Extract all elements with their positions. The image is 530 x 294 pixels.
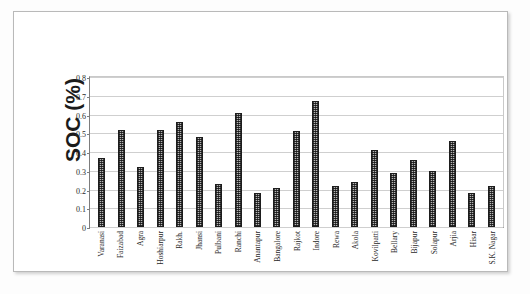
chart-frame: SOC (%) 00.10.20.30.40.50.60.70.8 Varana… [13, 11, 508, 272]
bar-slot [209, 77, 228, 227]
bar-slot [326, 77, 345, 227]
x-axis-tick-label: Hoshiarpur [155, 231, 164, 265]
bar [98, 158, 105, 227]
bar-slot [267, 77, 286, 227]
y-axis-tick-label: 0.5 [76, 130, 86, 139]
y-axis-tick-label: 0.4 [76, 149, 86, 158]
x-label-slot: Faizabad [111, 229, 131, 291]
y-axis-tick-label: 0.1 [76, 205, 86, 214]
y-axis-tick-label: 0.7 [76, 92, 86, 101]
bar-slot [404, 77, 423, 227]
bar [196, 137, 203, 227]
x-label-slot: Arjia [443, 229, 463, 291]
x-label-slot: Bangalore [267, 229, 287, 291]
x-axis-tick-label: Faizabad [116, 231, 125, 258]
bar-slot [248, 77, 267, 227]
x-label-slot: Akola [346, 229, 366, 291]
x-label-slot: Pulbani [208, 229, 228, 291]
bar [157, 130, 164, 228]
x-label-slot: Hoshiarpur [150, 229, 170, 291]
bar [468, 193, 475, 227]
x-label-slot: Bellary [385, 229, 405, 291]
x-label-slot: Agra [130, 229, 150, 291]
x-axis-tick-label: Ranchi [233, 231, 242, 252]
bar-slot [189, 77, 208, 227]
bar [176, 122, 183, 227]
x-label-slot: Jhansi [189, 229, 209, 291]
bar [410, 160, 417, 228]
bar-slot [92, 77, 111, 227]
x-label-slot: Bijapur [404, 229, 424, 291]
x-axis-tick-label: Solapur [429, 231, 438, 254]
bar [371, 150, 378, 227]
bar [254, 193, 261, 227]
x-axis-tick-label: Rakh. [175, 231, 184, 249]
y-axis-tick-label: 0.6 [76, 111, 86, 120]
x-axis-tick-label: Rajkot [292, 231, 301, 251]
x-axis-tick-label: Agra [135, 231, 144, 246]
x-axis-tick-label: Kovilpatti [370, 231, 379, 261]
y-axis-tick-label: 0.3 [76, 167, 86, 176]
x-label-slot: Anantapur [248, 229, 268, 291]
bar-slot [462, 77, 481, 227]
x-axis-tick-label: S.K. Nagar [488, 231, 497, 265]
x-label-slot: Rakh. [169, 229, 189, 291]
bar-slot [384, 77, 403, 227]
bar-slot [481, 77, 500, 227]
x-label-slot: Kovilpatti [365, 229, 385, 291]
bar [351, 182, 358, 227]
bar [312, 101, 319, 227]
bar-slot [365, 77, 384, 227]
bar-slot [170, 77, 189, 227]
x-axis-tick-label: Bangalore [272, 231, 281, 262]
bar-slot [111, 77, 130, 227]
x-axis-tick-label: Anantapur [253, 231, 262, 263]
bar-slot [306, 77, 325, 227]
bar-slot [423, 77, 442, 227]
bar [390, 173, 397, 227]
plot-area: 00.10.20.30.40.50.60.70.8 [89, 76, 504, 228]
bar-slot [131, 77, 150, 227]
x-label-slot: Ranchi [228, 229, 248, 291]
x-label-slot: Solapur [424, 229, 444, 291]
x-axis-labels: VaranasiFaizabadAgraHoshiarpurRakh.Jhans… [89, 229, 504, 291]
y-axis-tick-label: 0.8 [76, 74, 86, 83]
x-axis-tick-label: Arjia [449, 231, 458, 246]
y-axis-tick-label: 0.2 [76, 186, 86, 195]
x-axis-tick-label: Jhansi [194, 231, 203, 250]
bar [137, 167, 144, 227]
x-axis-tick-label: Bellary [390, 231, 399, 253]
x-axis-tick-label: Hisar [468, 231, 477, 247]
bar [488, 186, 495, 227]
x-axis-tick-label: Akola [351, 231, 360, 249]
bar-slot [228, 77, 247, 227]
x-axis-tick-label: Bijapur [410, 231, 419, 254]
x-axis-tick-label: Indore [312, 231, 321, 251]
bar-slot [442, 77, 461, 227]
x-label-slot: S.K. Nagar [483, 229, 503, 291]
chart-figure: SOC (%) 00.10.20.30.40.50.60.70.8 Varana… [0, 0, 530, 294]
bar-slot [287, 77, 306, 227]
bar [118, 130, 125, 228]
x-label-slot: Rewa [326, 229, 346, 291]
gridline: 0 [90, 227, 503, 228]
x-axis-tick-label: Varanasi [96, 231, 105, 257]
bar [215, 184, 222, 227]
bar [449, 141, 456, 227]
x-axis-tick-label: Pulbani [214, 231, 223, 254]
x-label-slot: Indore [306, 229, 326, 291]
bar [235, 113, 242, 227]
bar-slot [150, 77, 169, 227]
bar-series [90, 77, 503, 227]
bar-slot [345, 77, 364, 227]
x-axis-tick-label: Rewa [331, 231, 340, 248]
x-label-slot: Hisar [463, 229, 483, 291]
x-label-slot: Varanasi [91, 229, 111, 291]
y-axis-tick-label: 0 [82, 224, 86, 233]
x-label-slot: Rajkot [287, 229, 307, 291]
bar [429, 171, 436, 227]
bar [332, 186, 339, 227]
bar [293, 131, 300, 227]
bar [273, 188, 280, 227]
